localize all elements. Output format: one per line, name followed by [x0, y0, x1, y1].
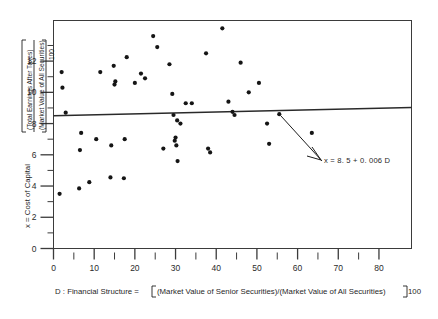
x-axis-multiplier: 100 — [408, 287, 422, 296]
data-point — [226, 100, 230, 104]
data-point — [112, 64, 116, 68]
data-point — [58, 192, 62, 196]
data-point — [109, 143, 113, 147]
data-point — [170, 92, 174, 96]
data-point — [204, 51, 208, 55]
data-point — [87, 180, 91, 184]
data-point — [184, 101, 188, 105]
data-point — [178, 121, 182, 125]
data-point — [277, 112, 281, 116]
data-point — [60, 86, 64, 90]
y-axis-multiplier: 100 — [48, 49, 55, 60]
x-tick-label: 10 — [89, 263, 99, 273]
data-point — [60, 70, 64, 74]
y-tick-label: 2 — [32, 212, 37, 222]
data-point — [98, 70, 102, 74]
x-tick-label: 30 — [171, 263, 181, 273]
y-axis-caption: x = Cost of Capital (Total Earnings Afte… — [22, 40, 55, 228]
data-point — [123, 137, 127, 141]
data-point — [239, 61, 243, 65]
data-point — [151, 34, 155, 38]
x-tick-label: 60 — [293, 263, 303, 273]
data-point — [175, 159, 179, 163]
data-point — [125, 55, 129, 59]
y-tick-label: 0 — [32, 244, 37, 254]
data-point — [174, 143, 178, 147]
data-point — [220, 26, 224, 30]
data-point — [190, 101, 194, 105]
data-point — [78, 148, 82, 152]
data-point — [171, 113, 175, 117]
data-point — [310, 131, 314, 135]
data-point — [257, 81, 261, 85]
data-point — [167, 62, 171, 66]
y-axis-numerator: (Total Earnings After Taxes) — [26, 49, 34, 130]
data-point — [133, 81, 137, 85]
data-point — [265, 121, 269, 125]
plot-canvas: 024681012 01020304050607080 x = 8. 5 + 0… — [0, 0, 438, 319]
plot-frame — [54, 21, 412, 249]
data-point — [64, 111, 68, 115]
data-point — [175, 118, 179, 122]
data-point — [155, 45, 159, 49]
data-point — [108, 175, 112, 179]
x-tick-label: 80 — [374, 263, 384, 273]
x-axis: 01020304050607080 — [51, 249, 384, 273]
y-tick-label: 4 — [32, 181, 37, 191]
y-axis-denominator: (Market Value of All Securities) — [38, 40, 46, 130]
data-point — [247, 90, 251, 94]
x-axis-caption-body: (Market Value of Senior Securities)/(Mar… — [157, 287, 386, 296]
x-tick-label: 40 — [211, 263, 221, 273]
fit-equation-annotation: x = 8. 5 + 0. 006 D — [324, 156, 391, 165]
data-point — [267, 142, 271, 146]
data-point — [77, 186, 81, 190]
data-point — [113, 79, 117, 83]
data-point — [206, 146, 210, 150]
y-tick-label: 6 — [32, 150, 37, 160]
data-point — [232, 113, 236, 117]
data-point — [173, 136, 177, 140]
x-axis-caption-prefix: D : Financial Structure = — [55, 287, 139, 296]
annotation-leader — [281, 116, 322, 161]
x-tick-label: 70 — [334, 263, 344, 273]
data-point — [122, 176, 126, 180]
data-point — [79, 131, 83, 135]
x-axis-caption: D : Financial Structure = (Market Value … — [55, 286, 422, 297]
data-point — [208, 150, 212, 154]
data-point — [161, 146, 165, 150]
y-axis-caption-prefix: x = Cost of Capital — [23, 164, 32, 228]
x-tick-label: 0 — [51, 263, 56, 273]
x-tick-label: 50 — [252, 263, 262, 273]
data-point — [94, 137, 98, 141]
data-point — [143, 76, 147, 80]
data-point — [139, 72, 143, 76]
x-tick-label: 20 — [130, 263, 140, 273]
scatter-plot-figure: 024681012 01020304050607080 x = 8. 5 + 0… — [0, 0, 438, 319]
